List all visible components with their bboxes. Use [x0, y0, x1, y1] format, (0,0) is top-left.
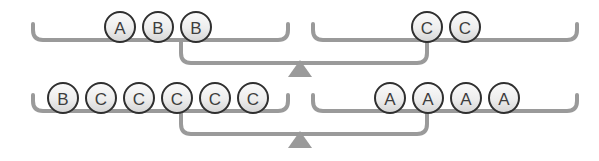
token-label: C: [171, 90, 183, 109]
token-label: C: [247, 90, 259, 109]
token-a[interactable]: A: [105, 12, 135, 42]
top-left-pan-tokens: ABB: [105, 12, 211, 42]
token-label: A: [114, 19, 126, 38]
token-a[interactable]: A: [489, 83, 519, 113]
token-label: C: [95, 90, 107, 109]
balance-scale-diagram: ABBCC BCCCCCAAAA: [0, 0, 599, 161]
token-a[interactable]: A: [413, 83, 443, 113]
token-label: C: [133, 90, 145, 109]
token-b[interactable]: B: [48, 83, 78, 113]
token-b[interactable]: B: [181, 12, 211, 42]
token-c[interactable]: C: [124, 83, 154, 113]
token-c[interactable]: C: [412, 12, 442, 42]
token-c[interactable]: C: [86, 83, 116, 113]
token-label: B: [190, 19, 201, 38]
token-label: A: [460, 90, 472, 109]
token-a[interactable]: A: [451, 83, 481, 113]
token-label: A: [384, 90, 396, 109]
token-label: C: [459, 19, 471, 38]
token-label: A: [498, 90, 510, 109]
token-label: B: [152, 19, 163, 38]
token-c[interactable]: C: [238, 83, 268, 113]
token-label: A: [422, 90, 434, 109]
token-a[interactable]: A: [375, 83, 405, 113]
token-c[interactable]: C: [450, 12, 480, 42]
token-b[interactable]: B: [143, 12, 173, 42]
token-c[interactable]: C: [200, 83, 230, 113]
token-label: B: [57, 90, 68, 109]
token-c[interactable]: C: [162, 83, 192, 113]
token-label: C: [421, 19, 433, 38]
token-label: C: [209, 90, 221, 109]
